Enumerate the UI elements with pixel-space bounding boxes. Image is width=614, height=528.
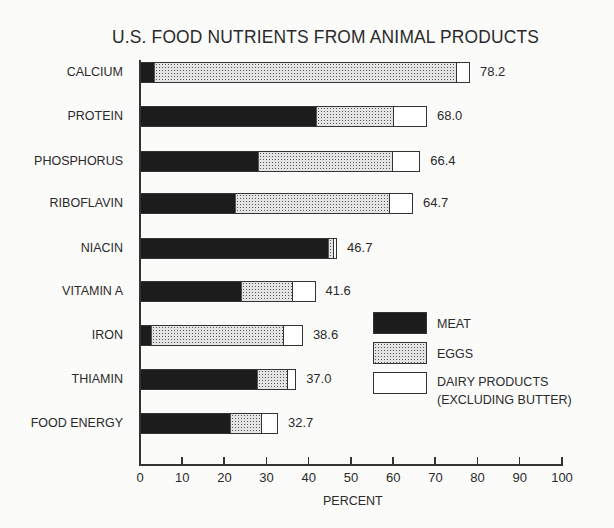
bar-segment-meat — [141, 194, 235, 213]
x-axis-line — [139, 464, 563, 466]
x-tick — [266, 457, 268, 464]
x-axis-label: PERCENT — [323, 494, 383, 508]
total-value-label: 38.6 — [313, 327, 338, 342]
x-tick-label: 100 — [551, 470, 573, 485]
bar-segment-eggs — [230, 414, 262, 433]
x-tick-label: 30 — [259, 470, 273, 485]
x-tick-label: 40 — [302, 470, 316, 485]
x-tick-label: 70 — [428, 470, 442, 485]
x-tick — [350, 457, 352, 464]
legend-label-dairy-line1: DAIRY PRODUCTS — [437, 374, 548, 391]
x-tick — [477, 457, 479, 464]
stacked-bar — [140, 325, 303, 346]
bar-segment-meat — [141, 107, 316, 126]
stacked-bar — [140, 413, 278, 434]
x-tick-label: 20 — [217, 470, 231, 485]
category-label: PHOSPHORUS — [34, 154, 123, 168]
bar-segment-eggs — [241, 282, 292, 301]
x-tick — [308, 457, 310, 464]
bar-segment-dairy — [283, 326, 302, 345]
category-label: CALCIUM — [67, 65, 123, 79]
bar-segment-eggs — [258, 152, 392, 171]
category-label: THIAMIN — [72, 372, 123, 386]
bar-segment-meat — [141, 326, 151, 345]
bar-segment-meat — [141, 152, 258, 171]
total-value-label: 46.7 — [347, 240, 372, 255]
bar-segment-meat — [141, 239, 328, 258]
bar-segment-eggs — [151, 326, 283, 345]
bar-segment-meat — [141, 414, 230, 433]
bar-segment-eggs — [316, 107, 394, 126]
stacked-bar — [140, 193, 413, 214]
total-value-label: 68.0 — [437, 108, 462, 123]
category-label: NIACIN — [81, 241, 123, 255]
x-tick — [434, 457, 436, 464]
legend-label-meat: MEAT — [437, 316, 471, 333]
x-tick — [392, 457, 394, 464]
x-tick-label: 50 — [344, 470, 358, 485]
x-tick — [223, 457, 225, 464]
bar-segment-dairy — [333, 239, 336, 258]
stacked-bar — [140, 151, 420, 172]
x-tick-label: 0 — [136, 470, 143, 485]
bar-segment-eggs — [154, 63, 456, 82]
total-value-label: 78.2 — [480, 64, 505, 79]
x-tick — [561, 457, 563, 464]
x-tick — [181, 457, 183, 464]
bar-segment-eggs — [257, 370, 287, 389]
bar-segment-eggs — [235, 194, 389, 213]
category-label: FOOD ENERGY — [31, 416, 123, 430]
x-tick-label: 60 — [386, 470, 400, 485]
total-value-label: 64.7 — [423, 195, 448, 210]
legend-swatch-dairy — [373, 372, 427, 394]
category-label: PROTEIN — [67, 109, 123, 123]
total-value-label: 66.4 — [430, 153, 455, 168]
bar-segment-meat — [141, 63, 154, 82]
stacked-bar — [140, 62, 470, 83]
stacked-bar — [140, 238, 337, 259]
legend-label-dairy-line2: (EXCLUDING BUTTER) — [437, 392, 572, 409]
bar-segment-dairy — [393, 107, 426, 126]
stacked-bar — [140, 281, 316, 302]
x-tick — [139, 457, 141, 464]
category-label: RIBOFLAVIN — [50, 196, 123, 210]
x-tick-label: 10 — [175, 470, 189, 485]
category-label: IRON — [92, 328, 123, 342]
bar-segment-dairy — [261, 414, 277, 433]
total-value-label: 32.7 — [288, 415, 313, 430]
x-tick — [519, 457, 521, 464]
x-tick-label: 80 — [470, 470, 484, 485]
legend-swatch-meat — [373, 312, 427, 334]
bar-segment-dairy — [292, 282, 315, 301]
chart-title: U.S. FOOD NUTRIENTS FROM ANIMAL PRODUCTS — [112, 26, 539, 48]
legend-label-eggs: EGGS — [437, 346, 473, 363]
stacked-bar — [140, 369, 296, 390]
total-value-label: 41.6 — [326, 283, 351, 298]
bar-segment-dairy — [392, 152, 419, 171]
total-value-label: 37.0 — [306, 371, 331, 386]
stacked-bar — [140, 106, 427, 127]
bar-segment-dairy — [287, 370, 295, 389]
bar-segment-dairy — [389, 194, 412, 213]
bar-segment-meat — [141, 282, 241, 301]
x-tick-label: 90 — [513, 470, 527, 485]
category-label: VITAMIN A — [62, 284, 123, 298]
bar-segment-dairy — [456, 63, 469, 82]
bar-segment-meat — [141, 370, 257, 389]
legend-swatch-eggs — [373, 342, 427, 364]
